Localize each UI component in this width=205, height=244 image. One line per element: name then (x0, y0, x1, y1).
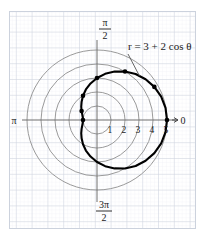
curve-point-6 (81, 118, 86, 123)
curve-point-5 (79, 109, 84, 114)
radial-tick-label-2: 2 (122, 125, 127, 135)
curve-point-0 (165, 118, 170, 123)
radial-tick-label-1: 1 (108, 125, 113, 135)
polar-plot-figure: r = 3 + 2 cos θ 0 π π 2 3π 2 12345 (0, 0, 205, 244)
equation-label: r = 3 + 2 cos θ (128, 40, 192, 52)
polar-plot-canvas: r = 3 + 2 cos θ 0 π π 2 3π 2 12345 (0, 0, 205, 244)
pi-over-two-numerator: π (102, 17, 107, 28)
pi-over-two-denominator: 2 (103, 30, 108, 41)
angle-label-pi: π (11, 115, 16, 126)
curve-point-3 (95, 76, 100, 81)
angle-label-zero: 0 (181, 115, 186, 126)
curve-point-1 (152, 85, 157, 90)
radial-tick-label-5: 5 (164, 125, 169, 135)
curve-point-4 (81, 93, 86, 98)
curve-point-2 (123, 69, 128, 74)
three-pi-over-two-numerator: 3π (99, 199, 109, 210)
radial-tick-label-3: 3 (136, 125, 141, 135)
three-pi-over-two-denominator: 2 (102, 212, 107, 223)
radial-tick-label-4: 4 (150, 125, 155, 135)
